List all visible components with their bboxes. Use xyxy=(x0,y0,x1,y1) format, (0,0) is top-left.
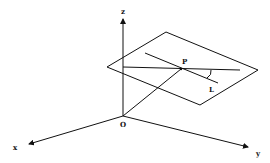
position-vector-OP xyxy=(123,69,181,116)
x-axis xyxy=(29,116,123,144)
point-P-label: P xyxy=(182,57,188,66)
z-axis-label: z xyxy=(121,7,125,16)
point-P xyxy=(180,68,182,70)
diagram-canvas: z x y O P L xyxy=(0,0,270,163)
y-axis xyxy=(123,116,248,147)
angle-arc xyxy=(207,70,211,78)
line-L-label: L xyxy=(209,85,214,94)
x-axis-label: x xyxy=(13,143,18,152)
origin-label: O xyxy=(120,120,126,129)
y-axis-label: y xyxy=(255,149,261,158)
